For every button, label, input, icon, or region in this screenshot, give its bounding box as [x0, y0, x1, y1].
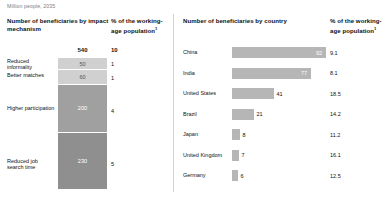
- country-pct: 11.2: [330, 132, 340, 138]
- stack-segment-label: Higher participation: [7, 105, 55, 111]
- stack-segment-value: 200: [78, 105, 87, 111]
- stack-segment-value: 230: [78, 158, 87, 164]
- country-label: China: [183, 49, 229, 56]
- country-row: Germany612.5: [183, 170, 379, 181]
- stack-segment-pct: 4: [111, 108, 114, 114]
- stack-segment-value: 50: [79, 61, 85, 67]
- country-value: 77: [301, 70, 307, 76]
- stack-segment-pct: 5: [111, 161, 114, 167]
- country-bar: [232, 170, 238, 181]
- stacked-bar-chart: 540 10 5060200230 Reduced informality1Be…: [7, 47, 167, 199]
- country-pct: 14.2: [330, 111, 341, 117]
- country-pct: 12.5: [330, 173, 341, 179]
- country-label: India: [183, 70, 229, 77]
- country-value: 21: [257, 111, 263, 117]
- country-value: 6: [241, 173, 244, 179]
- country-bar: [232, 68, 311, 79]
- left-pct-header: % of the working-age population1: [111, 17, 169, 34]
- country-label: United Kingdom: [183, 152, 229, 159]
- country-value: 7: [242, 152, 245, 158]
- stack-segment: 50: [58, 58, 107, 70]
- panel-impact-mechanism: Number of beneficiaries by impact mechan…: [7, 17, 167, 199]
- stack-segment: 230: [58, 133, 107, 189]
- country-label: Germany: [183, 172, 229, 179]
- stack-segment-pct: 1: [111, 75, 114, 81]
- stack-segment: 60: [58, 70, 107, 85]
- right-header-row: Number of beneficiaries by country % of …: [183, 17, 379, 47]
- country-row: United States4118.5: [183, 88, 379, 99]
- stack-column: 5060200230: [58, 58, 107, 189]
- right-pct-header: % of the working-age population1: [330, 17, 384, 34]
- chart-subtitle: Million people, 2035: [7, 3, 55, 9]
- country-bar: [232, 88, 274, 99]
- chart-page: Million people, 2035 Number of beneficia…: [0, 0, 384, 204]
- country-bar-chart: China929.1India778.1United States4118.5B…: [183, 47, 379, 199]
- stack-segment-pct: 1: [111, 61, 114, 67]
- country-value: 92: [316, 50, 322, 56]
- right-chart-title: Number of beneficiaries by country: [183, 17, 291, 25]
- country-pct: 9.1: [330, 50, 338, 56]
- panel-divider: [173, 14, 174, 192]
- country-label: United States: [183, 90, 229, 97]
- stack-segment-label: Reduced job search time: [7, 158, 55, 171]
- stack-segment-label: Reduced informality: [7, 58, 55, 71]
- country-pct: 16.1: [330, 152, 341, 158]
- country-row: China929.1: [183, 47, 379, 58]
- left-chart-title: Number of beneficiaries by impact mechan…: [7, 17, 115, 32]
- country-label: Japan: [183, 131, 229, 138]
- country-row: India778.1: [183, 68, 379, 79]
- panel-by-country: Number of beneficiaries by country % of …: [183, 17, 379, 199]
- total-value: 540: [58, 47, 107, 53]
- country-bar: [232, 150, 239, 161]
- country-bar: [232, 109, 254, 120]
- country-value: 41: [277, 91, 283, 97]
- stack-segment-label: Better matches: [7, 72, 55, 78]
- country-bar: [232, 129, 240, 140]
- country-bar: [232, 47, 326, 58]
- country-pct: 8.1: [330, 70, 338, 76]
- country-row: Japan811.2: [183, 129, 379, 140]
- total-pct: 10: [111, 47, 118, 53]
- right-pct-footnote-marker: 1: [374, 26, 376, 31]
- stack-segment-value: 60: [79, 74, 85, 80]
- country-label: Brazil: [183, 111, 229, 118]
- country-row: Brazil2114.2: [183, 109, 379, 120]
- left-pct-footnote-marker: 1: [155, 26, 157, 31]
- country-pct: 18.5: [330, 91, 341, 97]
- stack-segment: 200: [58, 85, 107, 134]
- total-row: 540 10: [7, 47, 167, 56]
- left-header-row: Number of beneficiaries by impact mechan…: [7, 17, 167, 47]
- country-row: United Kingdom716.1: [183, 150, 379, 161]
- country-value: 8: [243, 132, 246, 138]
